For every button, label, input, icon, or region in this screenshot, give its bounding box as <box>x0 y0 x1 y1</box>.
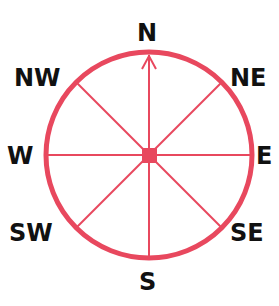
label-southeast: SE <box>230 221 264 245</box>
label-north: N <box>137 21 157 45</box>
label-west: W <box>7 144 33 168</box>
label-northeast: NE <box>230 66 266 90</box>
label-south: S <box>139 270 156 294</box>
label-east: E <box>256 144 272 168</box>
center-marker <box>142 148 157 163</box>
label-northwest: NW <box>14 66 61 90</box>
label-southwest: SW <box>9 221 53 245</box>
